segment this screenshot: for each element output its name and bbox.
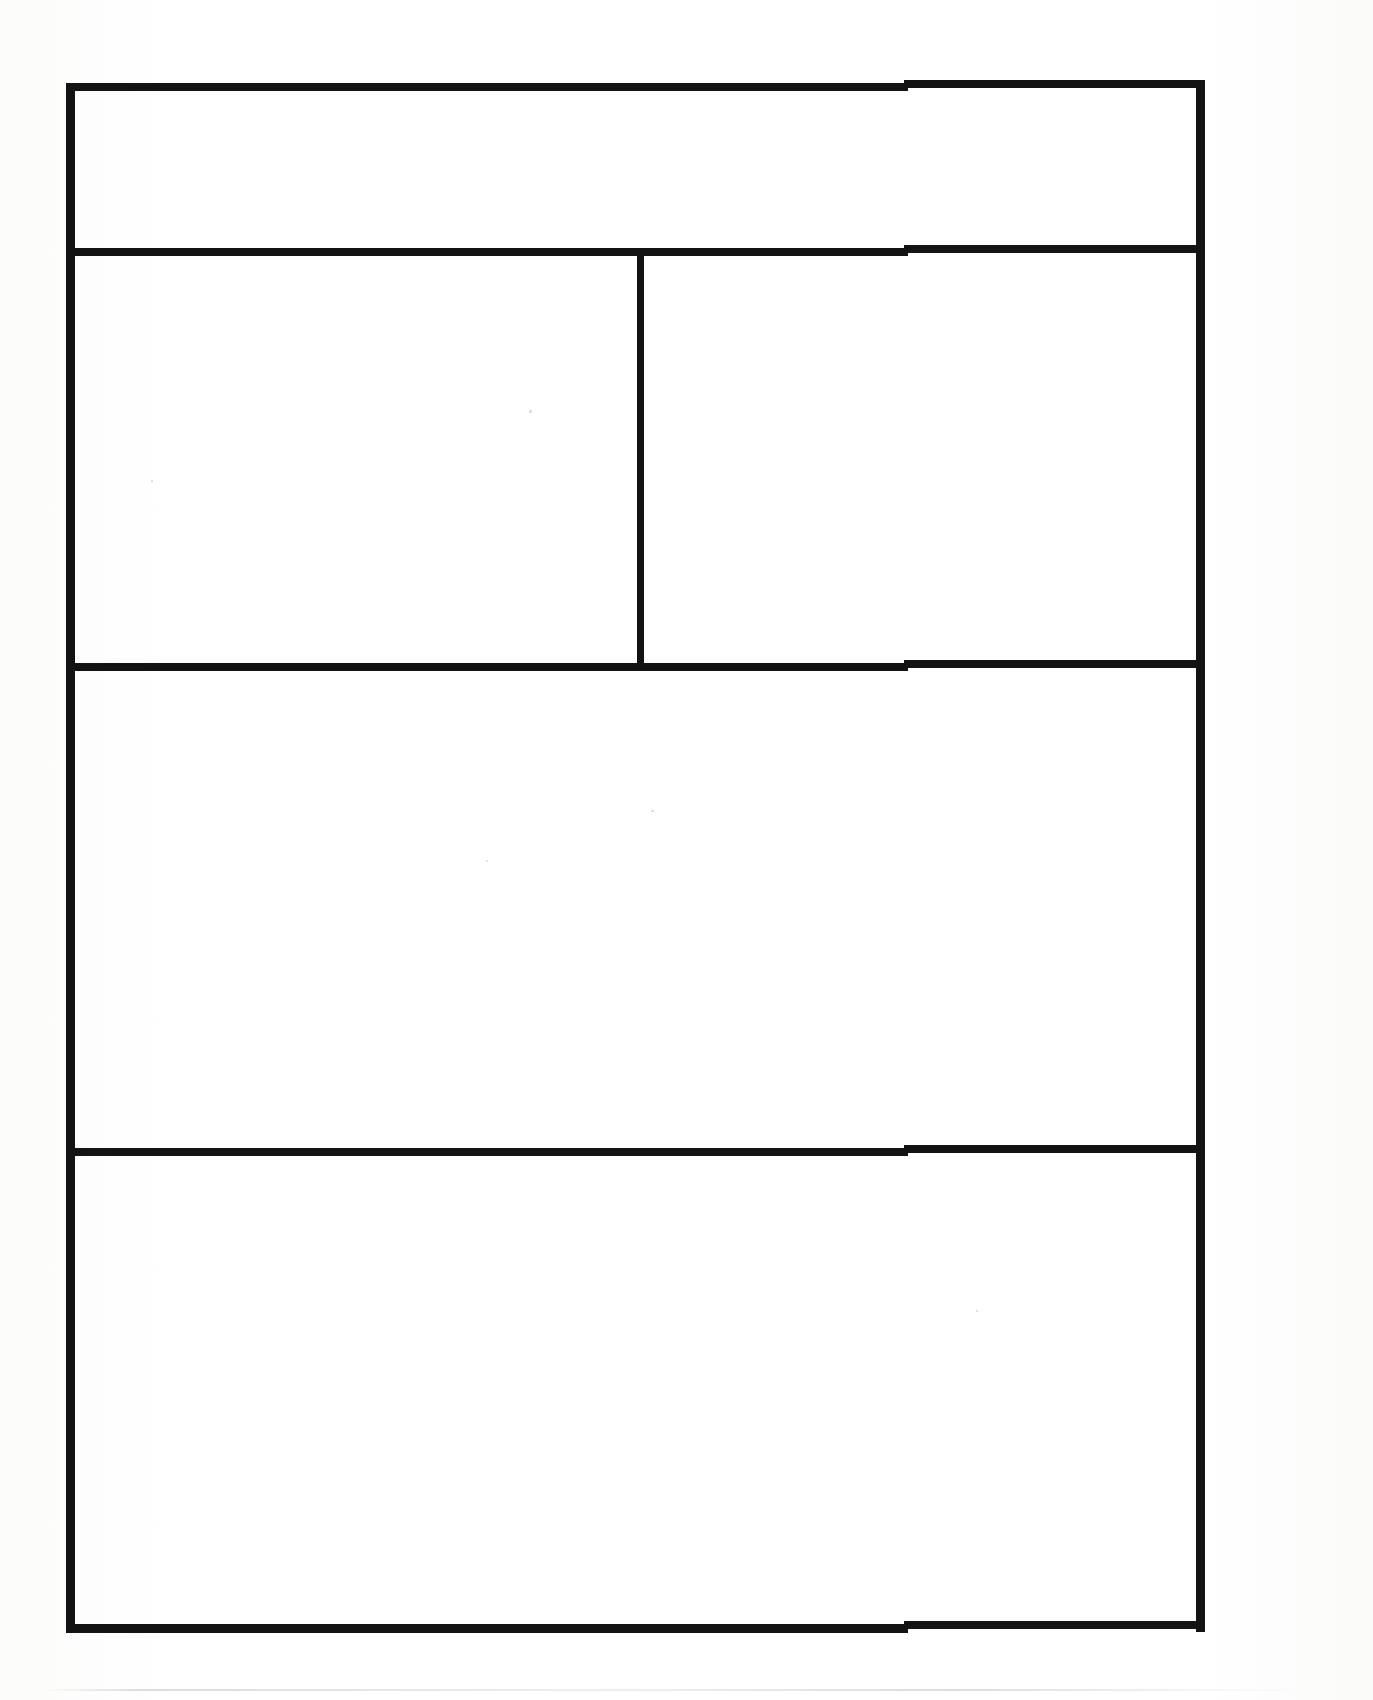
scanned-page [0,0,1373,1700]
table-border-right [1196,80,1205,1632]
table-cell-r2c1[interactable] [74,253,637,660]
table-divider-horizontal-3-skew-segment [904,1145,1205,1153]
table-border-top [66,83,908,91]
table-border-bottom [66,1624,908,1633]
table-divider-horizontal-1-skew-segment [904,245,1205,253]
table-divider-horizontal-1 [66,248,908,256]
table-border-bottom-skew-segment [904,1621,1205,1629]
table-cell-r3c1[interactable] [74,668,1197,1145]
table-cell-r2c2[interactable] [645,253,1197,660]
table-divider-horizontal-3 [66,1148,908,1156]
table-border-top-skew-segment [904,80,1205,88]
table-cell-r1c1[interactable] [74,88,1197,245]
table-divider-horizontal-2 [66,663,908,671]
table-divider-vertical-row2 [637,248,644,668]
table-border-left [66,83,75,1632]
blank-form-grid [66,80,1205,1632]
table-divider-horizontal-2-skew-segment [904,660,1205,668]
table-cell-r4c1[interactable] [74,1153,1197,1624]
scanner-edge-artifact [40,1689,1310,1691]
